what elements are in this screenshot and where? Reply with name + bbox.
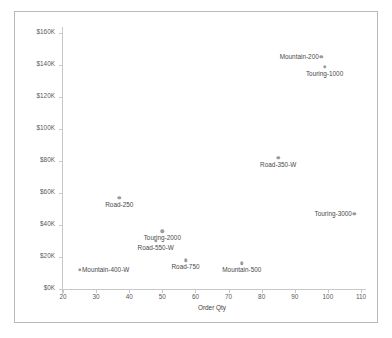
y-tick-label-wrap: $40K [0,221,55,229]
data-point-label: Mountain-200 [280,54,319,60]
y-tick-mark [59,65,62,66]
x-axis-line [62,289,366,290]
data-point-label: Road-350-W [260,162,296,168]
y-tick-mark [59,33,62,34]
y-tick-label: $120K [37,93,55,99]
y-tick-label-wrap: $20K [0,253,55,261]
data-point-label: Touring-3000 [315,211,352,217]
y-tick-label: $160K [37,29,55,35]
y-tick-mark [59,193,62,194]
data-point-label: Mountain-400-W [82,267,129,273]
y-tick-label-wrap: $0K [0,285,55,293]
y-tick-mark [59,161,62,162]
y-tick-mark [59,289,62,290]
x-tick-label: 70 [217,294,241,300]
y-tick-label-wrap: $60K [0,189,55,197]
y-tick-label-wrap: $100K [0,125,55,133]
y-tick-label: $20K [40,253,55,259]
y-tick-label-wrap: $160K [0,29,55,37]
y-tick-mark [59,225,62,226]
x-tick-label: 110 [349,294,373,300]
x-tick-label: 100 [316,294,340,300]
data-point-label: Touring-1000 [306,70,343,76]
x-tick-label: 20 [51,294,75,300]
y-tick-label-wrap: $80K [0,157,55,165]
data-point-label: Road-550-W [138,245,174,251]
x-axis-title: Order Qty [63,305,361,311]
x-tick-label: 60 [183,294,207,300]
data-point-label: Touring-2000 [144,235,181,241]
y-tick-label-wrap: $120K [0,93,55,101]
y-tick-label-wrap: $140K [0,61,55,69]
x-tick-label: 50 [150,294,174,300]
y-tick-label: $60K [40,189,55,195]
y-tick-label: $100K [37,125,55,131]
y-tick-label: $0K [44,285,55,291]
data-point-label: Road-250 [105,202,133,208]
data-point-label: Mountain-500 [222,267,261,273]
x-tick-label: 80 [250,294,274,300]
y-tick-label: $80K [40,157,55,163]
y-tick-label: $40K [40,221,55,227]
y-tick-mark [59,129,62,130]
x-tick-label: 90 [283,294,307,300]
x-tick-label: 40 [117,294,141,300]
y-tick-mark [59,97,62,98]
data-point-label: Road-750 [171,264,199,270]
y-tick-label: $140K [37,61,55,67]
scatter-chart: $0K$20K$40K$60K$80K$100K$120K$140K$160K … [0,0,392,338]
x-tick-label: 30 [84,294,108,300]
y-tick-mark [59,257,62,258]
